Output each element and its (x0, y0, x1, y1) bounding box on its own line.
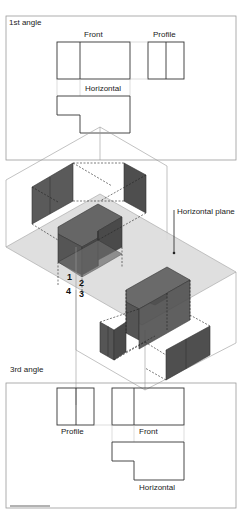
third-angle-profile-label: Profile (61, 428, 84, 436)
quadrant-4: 4 (66, 287, 71, 296)
first-angle-title: 1st angle (9, 19, 41, 27)
quadrant-2: 2 (79, 279, 84, 288)
quadrant-3: 3 (79, 290, 84, 299)
projection-diagram (0, 0, 244, 515)
quadrant-1: 1 (67, 273, 72, 282)
third-angle-profile-view (57, 388, 94, 425)
third-angle-horizontal-view (112, 442, 184, 480)
third-angle-frame (6, 383, 236, 508)
plane-callout-dot (173, 252, 176, 255)
third-angle-front-label: Front (139, 428, 158, 436)
horizontal-plane-label: Horizontal plane (177, 208, 235, 216)
first-angle-profile-view (148, 42, 184, 79)
third-angle-front-view (112, 388, 184, 425)
first-angle-horizontal-label: Horizontal (85, 85, 121, 93)
third-angle-title: 3rd angle (10, 366, 43, 374)
third-angle-horizontal-label: Horizontal (139, 484, 175, 492)
first-angle-front-view (57, 42, 130, 79)
first-angle-front-label: Front (84, 31, 103, 39)
first-angle-profile-label: Profile (153, 31, 176, 39)
first-angle-horizontal-view (57, 96, 130, 133)
